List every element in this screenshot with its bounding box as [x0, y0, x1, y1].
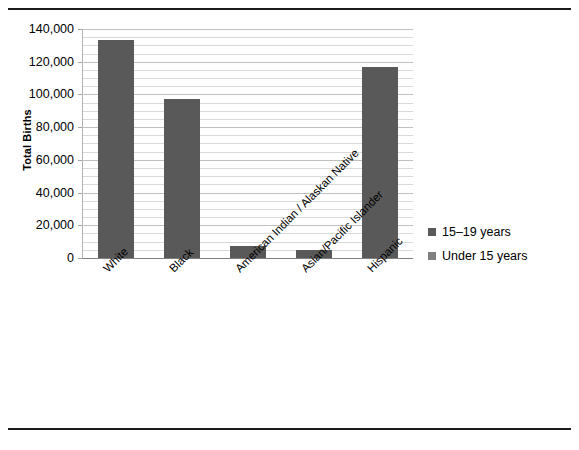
top-divider-rule	[8, 8, 571, 10]
bar-group	[83, 29, 149, 258]
y-axis-tick-mark	[78, 29, 82, 30]
bar	[362, 67, 399, 258]
y-axis-tick-label: 20,000	[0, 218, 74, 232]
y-axis-tick-label: 100,000	[0, 87, 74, 101]
bar-group	[215, 29, 281, 258]
legend-item[interactable]: Under 15 years	[428, 246, 568, 266]
y-axis-tick-mark	[78, 62, 82, 63]
y-axis-tick-mark	[78, 258, 82, 259]
y-axis-tick-label: 0	[0, 251, 74, 265]
y-axis-tick-label: 140,000	[0, 22, 74, 36]
bar-series-layer	[83, 29, 413, 258]
y-axis-title: Total Births	[21, 85, 33, 195]
y-axis-tick-label: 60,000	[0, 153, 74, 167]
y-axis-tick-mark	[78, 225, 82, 226]
y-axis-tick-mark	[78, 94, 82, 95]
chart-legend: 15–19 yearsUnder 15 years	[428, 222, 568, 270]
y-axis-tick-mark	[78, 193, 82, 194]
legend-item-label: 15–19 years	[442, 225, 511, 239]
bar	[98, 40, 135, 258]
legend-item-label: Under 15 years	[442, 249, 527, 263]
bar	[164, 99, 201, 258]
y-axis-tick-mark	[78, 127, 82, 128]
y-axis-tick-label: 40,000	[0, 186, 74, 200]
bottom-divider-rule	[8, 428, 571, 430]
bar-chart-figure: Total Births 020,00040,00060,00080,00010…	[0, 14, 579, 424]
legend-swatch-icon	[428, 228, 436, 236]
y-axis-tick-label: 120,000	[0, 55, 74, 69]
legend-swatch-icon	[428, 252, 436, 260]
y-axis-tick-mark	[78, 160, 82, 161]
plot-area	[82, 29, 413, 259]
y-axis-tick-label: 80,000	[0, 120, 74, 134]
legend-item[interactable]: 15–19 years	[428, 222, 568, 242]
bar-group	[149, 29, 215, 258]
